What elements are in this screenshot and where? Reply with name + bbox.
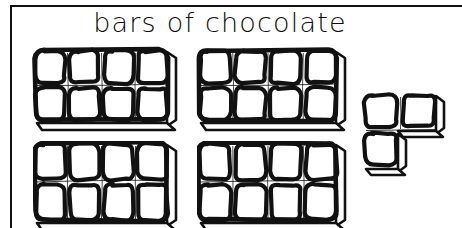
illustration-canvas: bars of chocolate [0, 0, 462, 228]
leftover-chocolate-piece [362, 92, 450, 182]
chocolate-bar-2 [197, 48, 356, 136]
chocolate-bar-4 [197, 141, 356, 228]
chocolate-bar-3 [33, 141, 187, 228]
frame-left-border [10, 5, 12, 228]
chocolate-bar-1 [33, 48, 187, 136]
page-title: bars of chocolate [0, 8, 440, 38]
